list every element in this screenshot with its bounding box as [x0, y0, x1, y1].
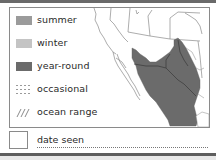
legend-item-ocean-range: ocean range — [16, 106, 97, 118]
legend-item-year-round: year-round — [16, 60, 90, 72]
legend-label: winter — [37, 37, 68, 49]
legend-item-winter: winter — [16, 37, 68, 49]
legend-label: ocean range — [37, 106, 97, 118]
date-seen-checkbox[interactable] — [9, 131, 28, 149]
ocean-range-hatch-swatch-icon — [16, 108, 32, 117]
legend-label: summer — [37, 14, 77, 26]
page-bottom-margin — [0, 156, 216, 160]
occasional-dotted-swatch-icon — [16, 85, 32, 94]
date-seen-input-line[interactable] — [37, 147, 208, 148]
year-round-swatch-icon — [16, 62, 32, 71]
legend-label: year-round — [37, 60, 90, 72]
range-map: summer winter year-round occasional — [9, 7, 210, 128]
page-top-rule — [0, 0, 216, 3]
date-seen-label: date seen — [37, 134, 84, 146]
legend-item-occasional: occasional — [16, 83, 88, 95]
summer-swatch-icon — [16, 16, 32, 25]
winter-swatch-icon — [16, 39, 32, 48]
legend-label: occasional — [37, 83, 88, 95]
legend-item-summer: summer — [16, 14, 77, 26]
